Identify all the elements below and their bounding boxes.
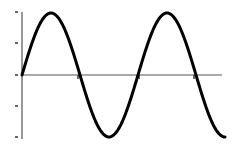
y-ticks <box>15 12 18 137</box>
sine-chart <box>0 0 237 151</box>
